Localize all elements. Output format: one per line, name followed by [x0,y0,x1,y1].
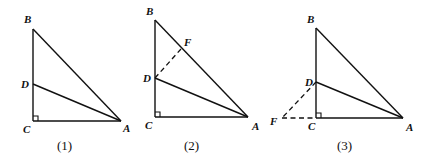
label-a: A [251,120,259,132]
label-d: D [142,72,151,84]
label-d: D [20,78,29,90]
segment-ad [33,84,121,121]
label-f: F [183,36,192,48]
segment-ad [316,82,403,118]
label-c: C [145,119,153,131]
segment-ab [33,29,121,121]
label-a: A [405,121,413,133]
right-angle-mark [316,113,321,118]
right-angle-mark [33,116,38,121]
figure-2: B F D C A (2) [142,5,259,153]
label-c: C [23,123,31,135]
label-d: D [304,76,313,88]
label-b: B [306,13,314,25]
segment-ab [155,20,248,117]
figure-caption: (3) [337,138,352,153]
diagram-canvas: B D C A (1) B F D C A (2) [0,0,434,158]
segment-df-dashed [155,49,181,78]
label-a: A [122,122,130,134]
label-c: C [308,120,316,132]
figure-caption: (2) [184,138,199,153]
figure-3: B D C A F (3) [269,13,413,153]
label-f: F [269,115,278,127]
label-b: B [145,5,153,17]
segment-ad [155,78,248,117]
geometry-figure: B D C A (1) B F D C A (2) [0,0,434,158]
figure-1: B D C A (1) [20,13,130,153]
label-b: B [23,13,31,25]
right-angle-mark [155,112,160,117]
figure-caption: (1) [57,138,72,153]
segment-ab [316,28,403,118]
